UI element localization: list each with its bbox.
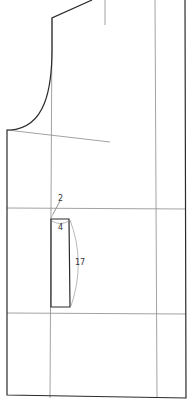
pattern-canvas: 2 4 17 <box>0 0 191 401</box>
garment-outline <box>7 0 186 398</box>
waist-guide-line <box>7 208 186 209</box>
label-pocket-length: 17 <box>75 258 85 267</box>
hip-guide-line <box>7 313 186 314</box>
dimension-marks <box>51 201 78 306</box>
pocket-outline <box>51 219 70 307</box>
label-pocket-width: 4 <box>58 223 63 232</box>
chest-guide-line <box>7 130 110 142</box>
guide-lines <box>7 0 186 398</box>
label-pocket-offset: 2 <box>58 194 63 203</box>
side-vertical-guide <box>155 0 157 398</box>
